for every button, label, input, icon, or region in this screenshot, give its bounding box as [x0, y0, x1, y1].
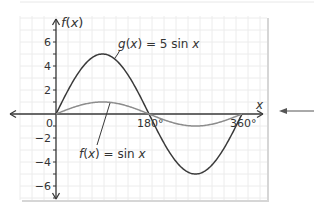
y-tick-label: −4 [35, 156, 51, 169]
pointer-arrow [279, 108, 314, 114]
x-axis-label: x [255, 98, 264, 112]
y-tick-label: 4 [44, 60, 51, 73]
y-tick-label: −2 [35, 132, 51, 145]
chart: 642−2−4−60180°360° f(x)xg(x) = 5 sin xf(… [0, 0, 314, 210]
g-label: g(x) = 5 sin x [118, 37, 200, 51]
pointer-arrow-head [279, 108, 287, 114]
x-tick-label: 360° [230, 117, 257, 130]
y-tick-label: −6 [35, 180, 51, 193]
y-tick-label: 6 [44, 36, 51, 49]
y-tick-label: 2 [44, 84, 51, 97]
x-tick-label: 0 [46, 117, 53, 130]
f-label: f(x) = sin x [79, 147, 146, 161]
y-axis-label: f(x) [61, 15, 83, 30]
